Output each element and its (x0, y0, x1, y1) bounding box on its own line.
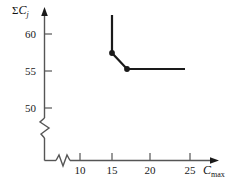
x-axis-title-subscript: max (211, 170, 225, 179)
data-point-marker-2 (124, 66, 130, 72)
x-axis-title-base: C (203, 163, 211, 177)
x-axis-tick-label-10: 10 (68, 165, 92, 176)
y-axis-tick-label-55: 55 (14, 66, 36, 77)
y-axis-tick-label-50: 50 (14, 103, 36, 114)
y-axis-title: ΣCj (12, 4, 29, 19)
x-axis-arrowhead (210, 157, 219, 164)
x-axis-tick-label-15: 15 (100, 165, 124, 176)
x-axis-title: Cmax (203, 164, 225, 179)
y-axis-tick-label-60: 60 (14, 29, 36, 40)
x-axis-tick-label-25: 25 (178, 165, 202, 176)
series-pareto-frontier-line (112, 15, 185, 69)
y-axis-break-zigzag (40, 118, 49, 138)
y-axis-arrowhead (41, 7, 48, 16)
data-point-marker-1 (109, 50, 115, 56)
pareto-frontier-chart: 60 55 50 10 15 20 25 ΣCj Cmax (0, 0, 239, 184)
y-axis-title-subscript: j (26, 10, 28, 19)
x-axis-tick-label-20: 20 (138, 165, 162, 176)
